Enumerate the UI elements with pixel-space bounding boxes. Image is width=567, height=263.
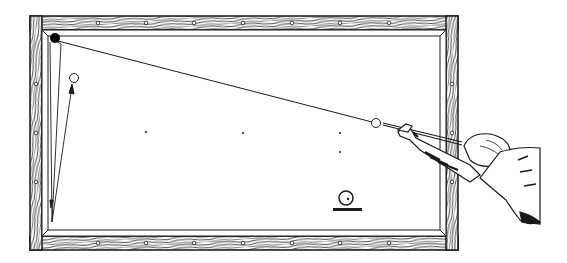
shot-path-line	[58, 41, 372, 122]
black-ball	[50, 33, 60, 43]
player-figure	[398, 124, 540, 224]
rail-path	[50, 42, 52, 222]
billiards-diagram	[0, 0, 567, 263]
object-ball	[70, 74, 79, 83]
table-spots	[145, 131, 341, 153]
diagram-canvas	[0, 0, 567, 263]
top-cushion	[42, 30, 446, 36]
rebound-path	[52, 40, 61, 222]
bottom-cushion	[42, 230, 446, 236]
ball-on-stand	[333, 191, 362, 211]
left-cushion	[42, 30, 48, 236]
right-cushion	[440, 30, 446, 236]
shot-lines	[50, 40, 372, 222]
arrow-head-icon	[69, 84, 74, 94]
cue-ball	[372, 119, 381, 128]
